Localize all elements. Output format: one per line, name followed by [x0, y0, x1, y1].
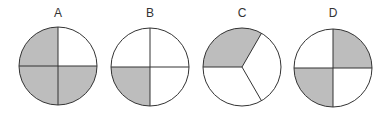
- circle-b-shaded-lower-left: [111, 67, 150, 106]
- fraction-circles-figure: A B C D: [0, 0, 387, 113]
- circle-d: [294, 29, 372, 107]
- circle-b-label: B: [146, 7, 154, 19]
- circle-d-label: D: [329, 7, 338, 19]
- circle-c: [203, 28, 281, 106]
- circle-d-shaded-upper-right: [333, 29, 372, 68]
- circle-c-label: C: [238, 7, 247, 19]
- circle-a-shaded-lower-left: [19, 66, 58, 105]
- circle-a: [19, 27, 97, 105]
- circle-a-shaded-lower-right: [58, 66, 97, 105]
- circle-b: [111, 28, 189, 106]
- circle-a-label: A: [54, 7, 62, 19]
- circle-d-shaded-lower-left: [294, 68, 333, 107]
- circle-a-shaded-upper-left: [19, 27, 58, 66]
